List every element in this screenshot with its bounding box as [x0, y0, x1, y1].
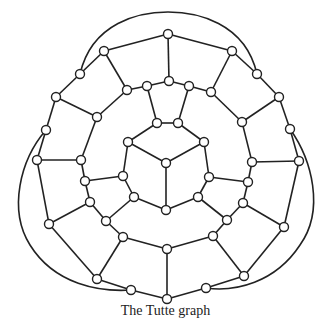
graph-edge — [106, 197, 134, 221]
graph-edge — [104, 34, 168, 51]
graph-node — [77, 156, 86, 165]
figure-caption: The Tutte graph — [0, 303, 331, 319]
graph-node — [244, 178, 253, 187]
graph-edge — [198, 197, 227, 220]
graph-edge — [211, 51, 232, 92]
graph-node — [33, 156, 42, 165]
graph-edge — [131, 290, 167, 299]
graph-node — [93, 113, 102, 122]
graph-node — [130, 193, 139, 202]
graph-node — [165, 77, 174, 86]
graph-edge — [97, 90, 127, 117]
graph-node — [240, 272, 249, 281]
graph-edge — [104, 51, 127, 90]
graph-edge — [123, 237, 167, 249]
graph-edge — [168, 34, 232, 51]
graph-node — [207, 88, 216, 97]
graph-node — [86, 198, 95, 207]
graph-edge — [242, 97, 279, 122]
graph-node — [123, 86, 132, 95]
graph-edge — [204, 142, 209, 177]
graph-edge — [147, 86, 157, 123]
graph-node — [238, 118, 247, 127]
graph-node — [174, 119, 183, 128]
graph-node — [162, 206, 171, 215]
graph-node — [102, 217, 111, 226]
graph-node — [124, 138, 133, 147]
graph-edge — [128, 123, 157, 142]
graph-edge — [213, 236, 244, 276]
graph-node — [202, 284, 211, 293]
graph-edge — [209, 177, 248, 182]
graph-edge — [166, 142, 204, 163]
graph-node — [200, 138, 209, 147]
graph-edge — [85, 176, 123, 181]
graph-node — [164, 30, 173, 39]
graph-node — [127, 286, 136, 295]
graph-edge — [211, 92, 242, 122]
graph-node — [143, 82, 152, 91]
graph-node — [52, 93, 61, 102]
graph-node — [163, 245, 172, 254]
graph-node — [42, 126, 51, 135]
graph-edge — [81, 117, 97, 160]
graph-edge — [242, 122, 252, 162]
graph-edge — [206, 276, 244, 288]
graph-node — [286, 125, 295, 134]
graph-node — [194, 193, 203, 202]
graph-edge — [284, 161, 299, 227]
graph-node — [205, 173, 214, 182]
graph-node — [81, 177, 90, 186]
graph-edge — [167, 288, 206, 299]
graph-node — [185, 82, 194, 91]
graph-node — [119, 233, 128, 242]
graph-node — [209, 232, 218, 241]
graph-node — [153, 119, 162, 128]
graph-edge — [168, 34, 169, 81]
graph-node — [223, 216, 232, 225]
graph-edge — [167, 236, 213, 249]
graph-node — [100, 47, 109, 56]
graph-node — [253, 70, 262, 79]
graph-edge — [178, 86, 189, 123]
graph-node — [248, 158, 257, 167]
graph-node — [76, 70, 85, 79]
graph-edge — [252, 161, 299, 162]
graph-edge — [37, 160, 49, 224]
graph-edge — [97, 237, 123, 279]
graph-node — [239, 199, 248, 208]
graph-node — [162, 159, 171, 168]
graph-node — [275, 93, 284, 102]
graph-edge — [128, 142, 166, 163]
graph-edge — [49, 202, 90, 224]
graph-node — [295, 157, 304, 166]
graph-node — [119, 172, 128, 181]
graph-node — [228, 47, 237, 56]
graph-node — [280, 223, 289, 232]
graph-node — [93, 275, 102, 284]
graph-edge — [56, 97, 97, 117]
graph-node — [45, 220, 54, 229]
graph-edge — [49, 224, 97, 279]
graph-edge — [243, 203, 284, 227]
